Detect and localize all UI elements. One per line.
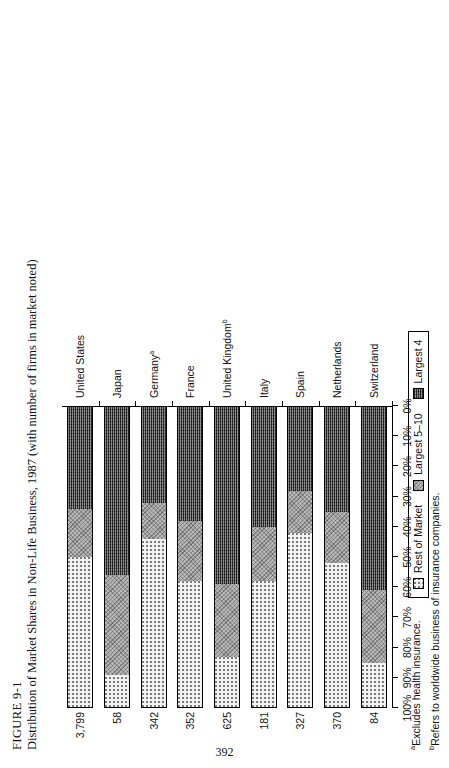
category-label: Germanya: [147, 351, 160, 398]
legend-label: Largest 4: [412, 340, 424, 384]
bar-segment: [324, 512, 350, 563]
category-label: Netherlands: [331, 341, 343, 398]
bar-row: [214, 406, 240, 708]
category-label: France: [184, 365, 196, 398]
bar-segment: [214, 657, 240, 708]
category-label: United States: [74, 335, 86, 398]
category-label: Spain: [294, 371, 306, 398]
axis-tick: [392, 405, 398, 406]
bar-segment: [104, 575, 130, 675]
axis-tick: [392, 677, 398, 678]
axis-tick-label: 90%: [401, 667, 413, 688]
bar-segment: [361, 590, 387, 662]
category-label: Switzerland: [368, 344, 380, 398]
bar-segment: [251, 406, 277, 527]
axis-tick-label: 80%: [401, 637, 413, 658]
axis-tick-label: 60%: [401, 577, 413, 598]
bar-row: [104, 406, 130, 708]
category-tick: [392, 401, 393, 407]
axis-tick-label: 10%: [401, 426, 413, 447]
bar-segment: [177, 406, 203, 521]
bar-segment: [251, 527, 277, 581]
chart-plot-area: [62, 406, 392, 708]
bar-segment: [251, 581, 277, 708]
value-axis-line: [392, 406, 393, 708]
category-tick: [172, 401, 173, 407]
page-number: 392: [0, 745, 449, 760]
axis-tick: [392, 647, 398, 648]
bar-segment: [177, 521, 203, 581]
axis-tick-label: 50%: [401, 546, 413, 567]
axis-tick-label: 40%: [401, 516, 413, 537]
bar-segment: [287, 406, 313, 491]
bar-row: [324, 406, 350, 708]
legend-swatch-icon: [413, 480, 424, 491]
axis-tick: [392, 556, 398, 557]
axis-tick: [392, 586, 398, 587]
axis-tick: [392, 465, 398, 466]
figure-number: FIGURE 9-1: [10, 190, 25, 750]
axis-tick-label: 20%: [401, 456, 413, 477]
bar-segment: [361, 406, 387, 590]
axis-tick: [392, 526, 398, 527]
bar-row: [251, 406, 277, 708]
bar-segment: [214, 406, 240, 584]
bar-segment: [324, 406, 350, 512]
category-label: Italy: [258, 379, 270, 398]
figure-caption: Distribution of Market Shares in Non-Lif…: [25, 190, 40, 750]
bar-segment: [141, 406, 167, 503]
figure-canvas: FIGURE 9-1 Distribution of Market Shares…: [0, 0, 449, 768]
category-axis-line: [62, 406, 392, 407]
category-tick: [245, 401, 246, 407]
bar-segment: [287, 491, 313, 533]
bar-segment: [214, 584, 240, 656]
bar-segment: [67, 509, 93, 557]
axis-tick: [392, 496, 398, 497]
legend-item: Largest 4: [412, 340, 424, 400]
legend-item: Largest 5–10: [412, 413, 424, 490]
axis-tick-label: 0%: [401, 398, 413, 413]
category-label: United Kingdomb: [221, 319, 234, 398]
footnote: bRefers to worldwide business of insuran…: [424, 493, 443, 750]
axis-tick: [392, 435, 398, 436]
bar-row: [67, 406, 93, 708]
axis-tick-label: 70%: [401, 607, 413, 628]
category-tick: [99, 401, 100, 407]
bar-row: [141, 406, 167, 708]
category-tick: [355, 401, 356, 407]
axis-tick: [392, 707, 398, 708]
bar-row: [287, 406, 313, 708]
bar-segment: [177, 581, 203, 708]
bar-segment: [287, 533, 313, 708]
axis-tick-label: 30%: [401, 486, 413, 507]
category-tick: [135, 401, 136, 407]
category-label: Japan: [111, 369, 123, 398]
category-tick: [282, 401, 283, 407]
axis-tick-label: 100%: [401, 695, 413, 722]
legend-label: Largest 5–10: [412, 413, 424, 474]
bar-segment: [361, 663, 387, 708]
bar-segment: [104, 675, 130, 708]
figure-title-block: FIGURE 9-1 Distribution of Market Shares…: [10, 190, 40, 750]
bar-segment: [104, 406, 130, 575]
bar-segment: [67, 406, 93, 509]
bar-row: [361, 406, 387, 708]
bar-segment: [324, 563, 350, 708]
bar-segment: [141, 503, 167, 539]
category-tick: [319, 401, 320, 407]
legend-swatch-icon: [413, 388, 424, 399]
axis-tick: [392, 616, 398, 617]
bar-segment: [67, 557, 93, 708]
category-tick: [209, 401, 210, 407]
bar-row: [177, 406, 203, 708]
bar-segment: [141, 539, 167, 708]
